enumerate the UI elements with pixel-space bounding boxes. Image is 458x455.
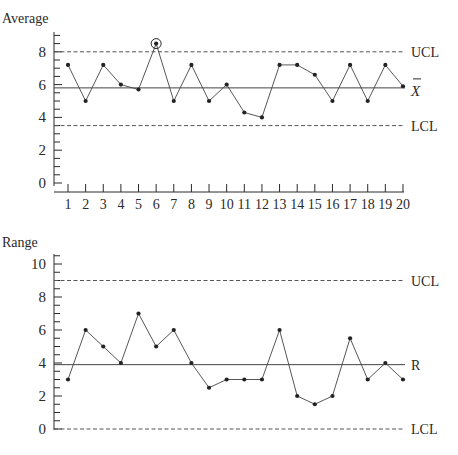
x-tick-label: 13 [273, 197, 287, 212]
y-tick-label: 10 [31, 256, 46, 272]
average-series-line [68, 44, 403, 118]
data-point [66, 63, 70, 67]
data-point [383, 63, 387, 67]
data-point [330, 99, 334, 103]
data-point [101, 344, 105, 348]
data-point [119, 83, 123, 87]
average-chart: Average 02468 12345678910111213141516171… [2, 11, 439, 212]
bottom-y-ticks: 0246810 [31, 256, 62, 437]
data-point [295, 394, 299, 398]
y-tick-label: 8 [39, 44, 47, 60]
top-xbar-label: X [410, 83, 421, 99]
data-point [189, 63, 193, 67]
data-point [172, 328, 176, 332]
data-point [366, 377, 370, 381]
x-tick-label: 4 [117, 197, 124, 212]
x-tick-label: 6 [153, 197, 160, 212]
range-chart: Range 0246810 UCL R LCL [2, 235, 439, 437]
y-tick-label: 8 [39, 289, 47, 305]
data-point [189, 361, 193, 365]
top-ucl-label: UCL [411, 45, 439, 60]
data-point [225, 377, 229, 381]
data-point [277, 63, 281, 67]
control-charts: Average 02468 12345678910111213141516171… [0, 0, 458, 455]
data-point [348, 63, 352, 67]
x-tick-label: 14 [290, 197, 304, 212]
bottom-y-axis-label: Range [2, 235, 38, 250]
data-point [401, 377, 405, 381]
x-tick-label: 20 [396, 197, 410, 212]
data-point [136, 311, 140, 315]
top-x-ticks: 1234567891011121314151617181920 [65, 184, 410, 212]
x-tick-label: 15 [308, 197, 322, 212]
data-point [207, 99, 211, 103]
top-lcl-label: LCL [411, 119, 437, 134]
x-tick-label: 5 [135, 197, 142, 212]
data-point [242, 377, 246, 381]
data-point [136, 87, 140, 91]
figure-caption-cropped [0, 441, 458, 455]
data-point [154, 344, 158, 348]
data-point [242, 110, 246, 114]
x-tick-label: 11 [238, 197, 251, 212]
data-point [154, 42, 158, 46]
data-point [207, 386, 211, 390]
data-point [84, 328, 88, 332]
y-tick-label: 6 [39, 322, 47, 338]
x-tick-label: 19 [378, 197, 392, 212]
x-tick-label: 17 [343, 197, 357, 212]
data-point [313, 402, 317, 406]
x-tick-label: 9 [206, 197, 213, 212]
bottom-ucl-label: UCL [411, 274, 439, 289]
data-point [260, 115, 264, 119]
x-tick-label: 8 [188, 197, 195, 212]
x-tick-label: 7 [170, 197, 177, 212]
data-point [401, 84, 405, 88]
data-point [277, 328, 281, 332]
data-point [225, 83, 229, 87]
data-point [366, 99, 370, 103]
x-tick-label: 1 [65, 197, 72, 212]
data-point [348, 336, 352, 340]
data-point [101, 63, 105, 67]
bottom-r-label: R [411, 358, 421, 373]
data-point [84, 99, 88, 103]
x-tick-label: 12 [255, 197, 269, 212]
top-y-axis-label: Average [2, 11, 48, 26]
y-tick-label: 0 [39, 175, 47, 191]
data-point [172, 99, 176, 103]
y-tick-label: 0 [39, 421, 47, 437]
x-tick-label: 10 [220, 197, 234, 212]
x-tick-label: 16 [325, 197, 339, 212]
x-tick-label: 18 [361, 197, 375, 212]
average-points [66, 39, 405, 120]
data-point [330, 394, 334, 398]
data-point [119, 361, 123, 365]
y-tick-label: 2 [39, 388, 47, 404]
data-point [260, 377, 264, 381]
y-tick-label: 6 [39, 77, 47, 93]
y-tick-label: 2 [39, 142, 47, 158]
y-tick-label: 4 [39, 355, 47, 371]
data-point [295, 63, 299, 67]
x-tick-label: 2 [82, 197, 89, 212]
bottom-lcl-label: LCL [411, 422, 437, 437]
y-tick-label: 4 [39, 109, 47, 125]
top-y-ticks: 02468 [39, 35, 63, 191]
range-series-line [68, 314, 403, 405]
data-point [66, 377, 70, 381]
data-point [383, 361, 387, 365]
x-tick-label: 3 [100, 197, 107, 212]
data-point [313, 73, 317, 77]
